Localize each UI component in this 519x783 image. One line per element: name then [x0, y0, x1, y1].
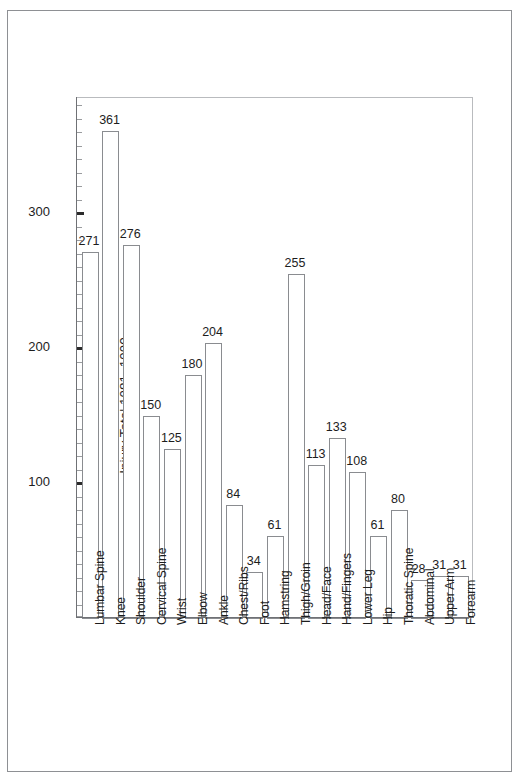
bar-value-label: 150 — [131, 399, 171, 412]
y-axis-minor-tick — [77, 105, 82, 106]
bar-value-label: 133 — [316, 421, 356, 434]
x-axis-category-label: Head/Face — [321, 566, 333, 625]
bar-value-label: 80 — [378, 493, 418, 506]
x-axis-category-label: Upper Arm — [444, 568, 456, 625]
bar-value-label: 108 — [337, 455, 377, 468]
x-axis-category-label: Elbow — [197, 592, 209, 625]
x-axis-category-label: Lumbar Spine — [94, 550, 106, 625]
bar-value-label: 361 — [90, 114, 130, 127]
x-axis-category-label: Lower Leg — [362, 569, 374, 625]
x-axis-category-label: Foot — [259, 601, 271, 625]
plot-area: Injury Total 1981–1990 — [76, 97, 473, 617]
y-axis-spine — [76, 97, 77, 618]
x-axis-category-label: Hand/Fingers — [341, 553, 353, 625]
bar-value-label: 271 — [69, 235, 109, 248]
bar — [185, 375, 202, 619]
bar-value-label: 84 — [213, 488, 253, 501]
bar-value-label: 113 — [296, 448, 336, 461]
x-axis-category-label: Forearm — [465, 580, 477, 625]
x-axis-category-label: Thoratic Spine — [403, 548, 415, 625]
bar — [102, 131, 119, 619]
y-axis-minor-tick — [77, 159, 82, 160]
y-axis-minor-tick — [77, 119, 82, 120]
x-axis-category-label: Cervical Spine — [156, 548, 168, 625]
x-axis-category-label: Ankle — [218, 595, 230, 625]
x-axis-category-label: Shoulder — [135, 577, 147, 625]
y-axis-tick-label-group: 100200300 — [0, 0, 64, 783]
x-axis-category-label: Knee — [115, 597, 127, 625]
x-axis-category-label: Hip — [382, 607, 394, 625]
bar-value-label: 204 — [193, 326, 233, 339]
y-axis-minor-tick — [77, 173, 82, 174]
x-axis-category-label: Wrist — [176, 598, 188, 625]
bar-value-label: 125 — [151, 432, 191, 445]
x-axis-category-label: Thigh/Groin — [300, 562, 312, 625]
bar — [123, 245, 140, 619]
y-axis-tick-label: 100 — [28, 475, 50, 488]
x-axis-category-label: Abdominal — [424, 568, 436, 625]
x-axis-category-label: Hamstring — [279, 570, 291, 625]
chart-page: 100200300 Injury Total 1981–1990 2713612… — [0, 0, 519, 783]
bar-value-label: 61 — [254, 519, 294, 532]
y-axis-tick-label: 300 — [28, 205, 50, 218]
y-axis-major-tick — [77, 212, 84, 215]
y-axis-minor-tick — [77, 186, 82, 187]
y-axis-minor-tick — [77, 132, 82, 133]
bar — [205, 343, 222, 619]
bar-value-label: 276 — [110, 228, 150, 241]
y-axis-minor-tick — [77, 227, 82, 228]
bar-value-label: 180 — [172, 358, 212, 371]
bar-value-label: 61 — [357, 519, 397, 532]
y-axis-minor-tick — [77, 200, 82, 201]
bar-value-label: 255 — [275, 257, 315, 270]
y-axis-minor-tick — [77, 146, 82, 147]
y-axis-tick-label: 200 — [28, 340, 50, 353]
x-axis-category-label: Chest/Ribs — [238, 566, 250, 625]
